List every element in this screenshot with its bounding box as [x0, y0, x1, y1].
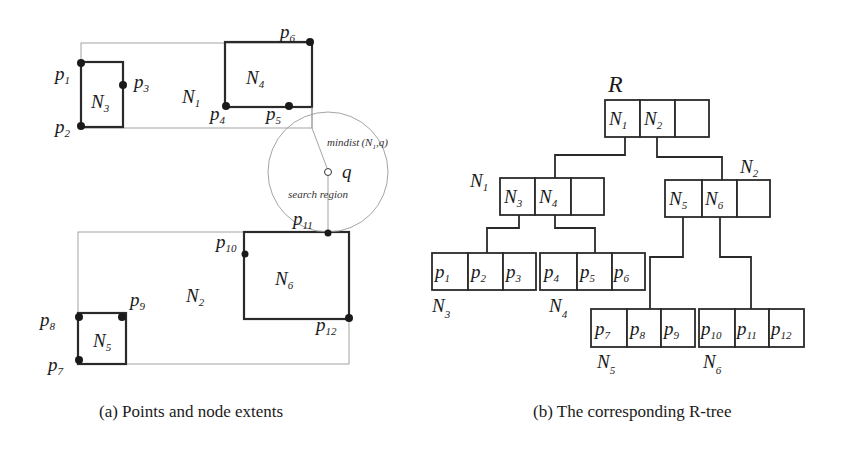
- label-n5: N5: [92, 330, 112, 353]
- point-p11: [325, 230, 332, 237]
- label-p2: p2: [53, 116, 71, 139]
- n3-leaf-node: p1 p2 p3: [432, 253, 536, 290]
- label-p1: p1: [53, 63, 70, 86]
- label-n3: N3: [90, 91, 110, 114]
- n5-leaf-node: p7 p8 p9: [591, 309, 695, 347]
- n1-node-label: N1: [469, 170, 488, 193]
- label-p12: p12: [314, 314, 337, 337]
- points-and-extents-panel: p1 p2 p3 p4 p5 p6 p7 p8 p9 p10 p11 p12 N…: [38, 21, 388, 377]
- point-p7: [75, 356, 83, 364]
- edge-r-n1: [555, 137, 625, 178]
- label-n6: N6: [274, 268, 294, 291]
- n4-leaf-label: N4: [548, 295, 568, 320]
- root-node: N1 N2: [605, 100, 709, 137]
- label-n2: N2: [185, 285, 205, 308]
- point-p2: [77, 122, 85, 130]
- label-search-region: search region: [288, 188, 348, 200]
- n2-node-label: N2: [739, 156, 759, 179]
- edge-n2-n5: [650, 217, 683, 309]
- label-mindist: mindist(N1,q): [327, 136, 388, 151]
- point-p1: [77, 59, 85, 67]
- label-n4: N4: [245, 67, 265, 90]
- label-p3: p3: [132, 71, 150, 94]
- n6-extent: [244, 232, 349, 319]
- label-p8: p8: [38, 309, 56, 332]
- caption-b: (b) The corresponding R-tree: [533, 402, 731, 422]
- n6-leaf-node: p10 p11 p12: [699, 309, 804, 347]
- n3-leaf-label: N3: [431, 295, 451, 320]
- n6-leaf-label: N6: [702, 351, 722, 376]
- mindist-line: [312, 128, 327, 168]
- edge-n1-n4: [555, 215, 595, 253]
- point-p9: [118, 313, 126, 321]
- root-label: R: [607, 71, 623, 97]
- point-p12: [345, 314, 353, 322]
- rtree-panel: R N1 N2 N1 N3 N4 N2 N5 N6: [431, 71, 804, 376]
- label-query: q: [342, 161, 352, 182]
- n4-leaf-node: p4 p5 p6: [540, 253, 645, 290]
- edge-r-n2: [657, 137, 722, 180]
- n2-node: N5 N6: [665, 180, 770, 217]
- point-p6: [306, 38, 314, 46]
- caption-a: (a) Points and node extents: [99, 402, 283, 422]
- point-p4: [222, 102, 230, 110]
- label-p10: p10: [214, 231, 237, 254]
- point-p10: [242, 251, 249, 258]
- label-p6: p6: [278, 21, 296, 44]
- point-p8: [75, 313, 83, 321]
- n1-node: N3 N4: [500, 178, 604, 215]
- label-p7: p7: [46, 354, 64, 377]
- rtree-figure: p1 p2 p3 p4 p5 p6 p7 p8 p9 p10 p11 p12 N…: [0, 0, 841, 457]
- label-p11: p11: [291, 208, 313, 231]
- edge-n2-n6: [720, 217, 751, 309]
- query-point-icon: [325, 169, 332, 176]
- n2-extent: [78, 232, 349, 364]
- n5-leaf-label: N5: [596, 351, 616, 376]
- label-p9: p9: [128, 289, 146, 312]
- point-p3: [119, 81, 127, 89]
- n4-extent: [225, 42, 312, 107]
- point-p5: [285, 102, 293, 110]
- label-n1: N1: [181, 86, 200, 109]
- edge-n1-n3: [487, 215, 519, 253]
